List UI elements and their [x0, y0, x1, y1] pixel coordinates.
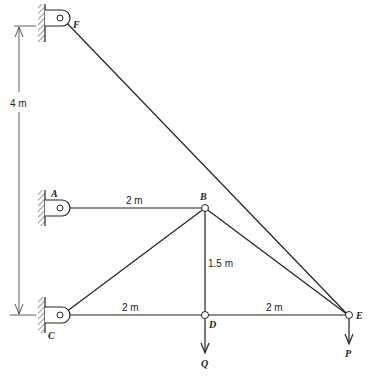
node-label-a: A [50, 188, 58, 199]
dim-label-cf: 4 m [10, 98, 27, 109]
load-label-q: Q [201, 358, 208, 369]
joint-d: D [202, 312, 217, 331]
load-q: Q [201, 319, 209, 369]
load-p: P [345, 319, 353, 359]
node-label-f: F [72, 19, 80, 30]
truss-diagram: 4 m F A C B D E [0, 0, 368, 379]
dim-label-bd: 1.5 m [208, 258, 233, 269]
members [62, 18, 348, 315]
member-cb [62, 208, 205, 315]
dimension-4m: 4 m [10, 26, 36, 315]
dim-label-cd: 2 m [122, 302, 139, 313]
dim-label-ab: 2 m [126, 195, 143, 206]
node-label-b: B [199, 191, 207, 202]
node-label-c: C [48, 330, 55, 341]
node-label-d: D [208, 319, 216, 330]
support-c: C [38, 297, 70, 341]
load-label-p: P [345, 348, 352, 359]
joint-e: E [346, 310, 364, 321]
support-f: F [38, 4, 80, 42]
node-label-e: E [355, 310, 363, 321]
dim-label-de: 2 m [266, 302, 283, 313]
support-a: A [38, 188, 70, 226]
